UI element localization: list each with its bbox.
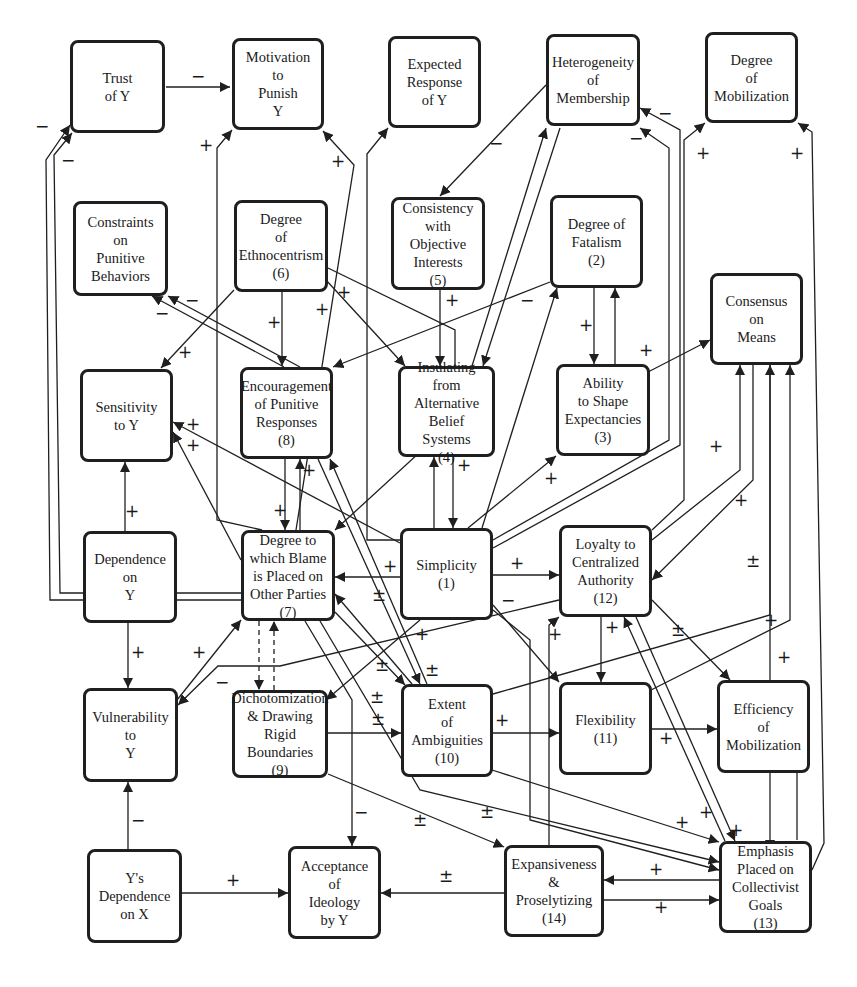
edge-sign: + — [273, 502, 287, 519]
edge-loyalty-to-mobilization — [652, 123, 705, 530]
edge-ability-to-consensus — [648, 340, 710, 372]
edge-sign: − — [629, 130, 643, 147]
edge-sign: − — [61, 152, 75, 169]
node-label: Vulnerability to Y — [92, 708, 168, 762]
edge-flexibility-to-consensus — [651, 365, 790, 690]
node-number: (13) — [753, 914, 777, 932]
edge-sign: − — [215, 674, 229, 691]
node-insulating: Insulating from Alternative Belief Syste… — [398, 366, 495, 457]
edge-sign: + — [699, 804, 713, 821]
edge-sign: ± — [480, 804, 494, 821]
edge-sign: + — [226, 872, 240, 889]
node-number: (7) — [280, 603, 297, 621]
node-label: Loyalty to Centralized Authority — [572, 535, 639, 589]
edge-sign: ± — [370, 689, 384, 706]
edge-sign: + — [495, 712, 509, 729]
edge-sign: ± — [371, 711, 385, 728]
edge-sign: − — [354, 804, 368, 821]
edge-sign: ± — [413, 812, 427, 829]
edge-sign: + — [639, 342, 653, 359]
edge-sign: + — [186, 416, 200, 433]
node-acceptance: Acceptance of Ideology by Y — [288, 846, 381, 939]
node-dependence: Dependence on Y — [83, 531, 177, 623]
node-number: (2) — [588, 251, 605, 269]
edge-sign: + — [605, 619, 619, 636]
node-consensus: Consensus on Means — [710, 273, 803, 365]
node-loyalty: Loyalty to Centralized Authority(12) — [559, 525, 652, 617]
node-label: Consistency with Objective Interests — [403, 199, 474, 271]
node-number: (12) — [593, 589, 617, 607]
edge-sign: + — [649, 861, 663, 878]
edge-blame-to-sensitivity — [173, 432, 241, 560]
edge-sign: + — [659, 730, 673, 747]
node-label: Trust of Y — [102, 69, 132, 105]
node-number: (4) — [438, 448, 455, 466]
node-mobilization: Degree of Mobilization — [705, 32, 798, 123]
edge-sign: + — [777, 649, 791, 666]
node-trust: Trust of Y — [70, 40, 165, 133]
edge-sign: − — [191, 68, 205, 85]
edge-sign: + — [199, 137, 213, 154]
edge-sign: + — [729, 822, 743, 839]
edge-expansiveness-to-loyalty — [549, 617, 559, 845]
edge-sign: − — [155, 305, 169, 322]
node-number: (6) — [273, 264, 290, 282]
node-number: (10) — [435, 749, 459, 767]
edge-sign: − — [520, 292, 534, 309]
node-label: Extent of Ambiguities — [411, 695, 483, 749]
node-motivation: Motivation to Punish Y — [232, 38, 324, 130]
edge-fatalism-to-encouragement — [333, 282, 550, 367]
edge-sign: + — [383, 558, 397, 575]
node-number: (3) — [595, 428, 612, 446]
edge-sign: + — [131, 644, 145, 661]
edge-sign: ± — [372, 587, 386, 604]
edge-blame-to-motivation — [217, 130, 262, 530]
node-number: (9) — [272, 761, 289, 779]
edge-sign: + — [302, 462, 316, 479]
node-blame: Degree to which Blame is Placed on Other… — [241, 530, 335, 621]
edge-simplicity-to-ability — [468, 456, 556, 528]
edge-sign: + — [696, 145, 710, 162]
edge-sign: + — [337, 284, 351, 301]
edge-sign: + — [709, 438, 723, 455]
edge-sign: + — [178, 344, 192, 361]
node-dichotomization: Dichotomization & Drawing Rigid Boundari… — [232, 690, 328, 778]
edge-sign: + — [654, 899, 668, 916]
edge-sign: + — [125, 503, 139, 520]
node-simplicity: Simplicity(1) — [400, 528, 493, 620]
node-label: Degree of Ethnocentrism — [239, 210, 324, 264]
edge-sign: − — [35, 118, 49, 135]
node-label: Insulating from Alternative Belief Syste… — [403, 358, 490, 448]
node-fatalism: Degree of Fatalism(2) — [550, 195, 643, 288]
node-label: Motivation to Punish Y — [246, 48, 310, 120]
edge-sign: ± — [439, 868, 453, 885]
node-vulnerability: Vulnerability to Y — [83, 688, 178, 782]
edge-sign: − — [185, 292, 199, 309]
edge-sign: − — [501, 592, 515, 609]
node-label: Flexibility — [575, 711, 635, 729]
node-label: Heterogeneity of Membership — [552, 53, 634, 107]
node-consistency: Consistency with Objective Interests(5) — [391, 197, 485, 290]
node-ambiguities: Extent of Ambiguities(10) — [401, 684, 493, 777]
node-label: Dichotomization & Drawing Rigid Boundari… — [231, 689, 328, 761]
edge-sign: + — [544, 470, 558, 487]
node-label: Sensitivity to Y — [95, 398, 157, 434]
node-encouragement: Encouragement of Punitive Responses(8) — [240, 367, 333, 459]
edge-sign: + — [675, 814, 689, 831]
edge-sign: ± — [671, 622, 685, 639]
edge-sign: ± — [375, 657, 389, 674]
edge-vulnerability-to-blame — [177, 620, 241, 700]
node-number: (5) — [430, 271, 447, 289]
edge-blame-to-ambiguities — [335, 612, 405, 685]
edge-sign: + — [579, 317, 593, 334]
node-number: (14) — [542, 909, 566, 927]
node-sensitivity: Sensitivity to Y — [80, 369, 173, 462]
edge-sign: − — [131, 812, 145, 829]
edge-sign: + — [510, 555, 524, 572]
edge-sign: + — [186, 437, 200, 454]
edge-sign: + — [267, 314, 281, 331]
edge-sign: + — [445, 292, 459, 309]
node-efficiency: Efficiency of Mobilization — [717, 680, 810, 773]
edge-simplicity-to-expected — [367, 128, 400, 540]
node-ability: Ability to Shape Expectancies(3) — [556, 364, 650, 456]
